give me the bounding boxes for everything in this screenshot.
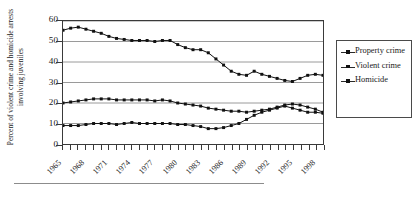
- data-point: [115, 98, 118, 101]
- data-point: [84, 98, 87, 101]
- data-point: [130, 39, 133, 42]
- data-point: [306, 74, 309, 77]
- data-point: [153, 99, 156, 102]
- data-point: [199, 105, 202, 108]
- data-point: [107, 97, 110, 100]
- data-point: [276, 77, 279, 80]
- data-point: [123, 122, 126, 125]
- series-line-property-crime: [63, 27, 323, 81]
- legend-item: Violent crime: [341, 61, 408, 72]
- data-point: [214, 57, 217, 60]
- data-point: [153, 40, 156, 43]
- data-point: [130, 98, 133, 101]
- data-point: [138, 39, 141, 42]
- chart-legend: Property crimeViolent crimeHomicide: [336, 40, 412, 118]
- x-tick-label: 1977: [137, 158, 155, 176]
- data-point: [77, 124, 80, 127]
- data-point: [146, 98, 149, 101]
- data-point: [291, 107, 294, 110]
- x-tick-label: 1989: [230, 158, 248, 176]
- data-point: [268, 109, 271, 112]
- data-point: [222, 64, 225, 67]
- x-tick-label: 1965: [45, 158, 63, 176]
- x-tick-label: 1998: [299, 158, 317, 176]
- data-point: [92, 122, 95, 125]
- data-point: [314, 108, 317, 111]
- data-point: [314, 111, 317, 114]
- square-marker-icon: [341, 48, 355, 57]
- data-point: [299, 77, 302, 80]
- data-point: [115, 123, 118, 126]
- data-point: [276, 107, 279, 110]
- data-point: [115, 37, 118, 40]
- legend-item-label: Homicide: [355, 75, 388, 84]
- data-point: [107, 35, 110, 38]
- data-point: [260, 73, 263, 76]
- data-point: [169, 122, 172, 125]
- x-tick-label: 1983: [184, 158, 202, 176]
- y-tick-label: 20: [36, 99, 58, 108]
- chart-figure: Percent of violent crime and homicide ar…: [0, 0, 418, 198]
- data-point: [130, 121, 133, 124]
- data-point: [237, 73, 240, 76]
- y-tick-label: 0: [36, 140, 58, 149]
- data-point: [184, 46, 187, 49]
- y-tick-label: 60: [36, 15, 58, 24]
- legend-item: Homicide: [341, 75, 408, 86]
- data-point: [245, 118, 248, 121]
- data-point: [253, 114, 256, 117]
- data-point: [230, 70, 233, 73]
- data-point: [207, 51, 210, 54]
- data-point: [100, 122, 103, 125]
- data-point: [237, 110, 240, 113]
- x-tick-label: 1971: [91, 158, 109, 176]
- data-point: [69, 100, 72, 103]
- data-point: [245, 74, 248, 77]
- data-point: [192, 48, 195, 51]
- data-point: [176, 123, 179, 126]
- data-point: [253, 110, 256, 113]
- data-point: [100, 32, 103, 35]
- data-point: [169, 99, 172, 102]
- data-point: [222, 126, 225, 129]
- data-point: [207, 107, 210, 110]
- x-tick-label: 1986: [207, 158, 225, 176]
- data-point: [161, 98, 164, 101]
- data-point: [63, 102, 64, 105]
- plot-area: [62, 20, 324, 145]
- data-point: [306, 111, 309, 114]
- data-point: [260, 111, 263, 114]
- data-point: [146, 122, 149, 125]
- data-point: [299, 109, 302, 112]
- data-point: [207, 127, 210, 130]
- data-point: [100, 97, 103, 100]
- data-point: [176, 43, 179, 46]
- data-point: [63, 29, 64, 32]
- data-point: [299, 104, 302, 107]
- data-point: [283, 105, 286, 108]
- data-point: [322, 74, 323, 77]
- data-point: [77, 99, 80, 102]
- data-point: [169, 39, 172, 42]
- x-tick-label: 1992: [253, 158, 271, 176]
- chart-canvas: [63, 21, 323, 144]
- data-point: [184, 123, 187, 126]
- x-tick-label: 1995: [276, 158, 294, 176]
- data-point: [123, 38, 126, 41]
- data-point: [214, 127, 217, 130]
- data-point: [146, 39, 149, 42]
- data-point: [192, 124, 195, 127]
- data-point: [138, 98, 141, 101]
- data-point: [237, 122, 240, 125]
- square-marker-icon: [341, 63, 355, 72]
- y-tick-label: 10: [36, 120, 58, 129]
- data-point: [92, 97, 95, 100]
- data-point: [138, 122, 141, 125]
- legend-item-label: Property crime: [355, 46, 405, 55]
- data-point: [192, 104, 195, 107]
- data-point: [245, 111, 248, 114]
- legend-item-label: Violent crime: [355, 61, 401, 70]
- x-tick-label: 1968: [68, 158, 86, 176]
- data-point: [84, 28, 87, 31]
- data-point: [77, 26, 80, 29]
